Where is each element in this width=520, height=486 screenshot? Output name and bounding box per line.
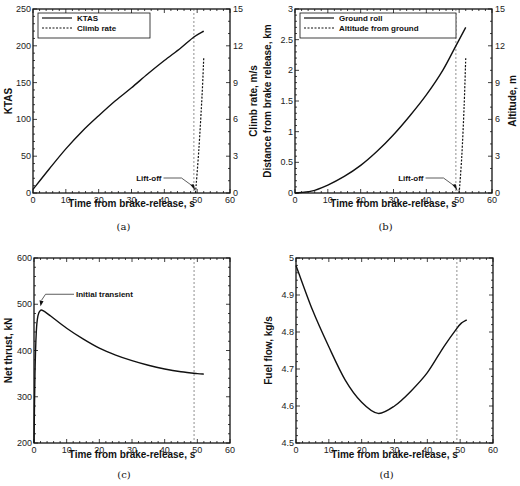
series-fuel-flow — [296, 265, 467, 413]
y2-tick-label: 9 — [495, 78, 500, 88]
x-tick-label: 0 — [293, 445, 298, 455]
y-tick-label: 5 — [289, 253, 294, 263]
y2-tick-label: 15 — [495, 4, 505, 14]
y-axis-label: Net thrust, kN — [3, 318, 14, 384]
y2-tick-label: 15 — [233, 4, 243, 14]
y2-axis: 03691215Climb rate, m/s — [226, 4, 259, 198]
y-axis-label: KTAS — [3, 87, 14, 114]
legend: KTASClimb rate — [38, 13, 150, 38]
y-tick-label: 4.6 — [281, 401, 294, 411]
x-tick-label: 60 — [225, 445, 235, 455]
annotation-text: Lift-off — [136, 174, 162, 183]
series-altitude-from-ground — [459, 58, 466, 193]
subfigure-caption: (c) — [117, 469, 131, 480]
y2-tick-label: 12 — [495, 41, 505, 51]
x-axis-label: Time from brake-release, s — [68, 198, 195, 209]
annotation: Lift-off — [136, 174, 195, 191]
subfigure-caption: (a) — [117, 221, 131, 232]
chart-b: 0102030405060Time from brake-release, s0… — [262, 4, 518, 232]
plot-frame — [296, 258, 493, 443]
x-axis-label: Time from brake-release, s — [330, 198, 457, 209]
y-tick-label: 4.8 — [281, 327, 294, 337]
x-tick-label: 0 — [31, 445, 36, 455]
y-axis: 050100150200250KTAS — [3, 4, 37, 198]
series-ground-roll — [295, 27, 466, 193]
x-tick-label: 60 — [488, 445, 498, 455]
y-tick-label: 600 — [17, 253, 32, 263]
annotation-text: Lift-off — [398, 174, 424, 183]
series-ktas — [33, 31, 204, 189]
y-axis: 4.54.64.74.84.95Fuel flow, kg/s — [263, 253, 493, 448]
legend-label: Climb rate — [77, 24, 117, 33]
y-tick-label: 500 — [17, 299, 32, 309]
y-tick-label: 0 — [26, 188, 31, 198]
x-axis-label: Time from brake-release, s — [331, 449, 458, 460]
y2-axis-label: Altitude, m — [507, 75, 518, 127]
y-tick-label: 150 — [16, 78, 31, 88]
x-axis: 0102030405060Time from brake-release, s — [292, 9, 497, 209]
y-tick-label: 4.5 — [281, 438, 294, 448]
annotation: Initial transient — [40, 290, 134, 306]
legend-label: KTAS — [77, 14, 99, 23]
chart-a: 0102030405060Time from brake-release, s0… — [3, 4, 259, 232]
y2-tick-label: 0 — [233, 188, 238, 198]
y-tick-label: 4.9 — [281, 290, 294, 300]
y2-tick-label: 12 — [233, 41, 243, 51]
x-tick-label: 0 — [292, 195, 297, 205]
y-tick-label: 0 — [288, 188, 293, 198]
y-tick-label: 2 — [288, 65, 293, 75]
x-axis: 0102030405060Time from brake-release, s — [293, 258, 498, 460]
y2-tick-label: 6 — [233, 114, 238, 124]
y-axis: 00.511.522.53Distance from brake release… — [262, 4, 299, 198]
y-tick-label: 1.5 — [280, 96, 293, 106]
y2-tick-label: 9 — [233, 78, 238, 88]
subfigure-caption: (d) — [379, 469, 393, 480]
legend-label: Ground roll — [339, 14, 383, 23]
y-tick-label: 300 — [17, 392, 32, 402]
y-tick-label: 4.7 — [281, 364, 294, 374]
y-axis: 200300400500600Net thrust, kN — [3, 253, 230, 448]
annotation: Lift-off — [398, 174, 457, 191]
y-tick-label: 400 — [17, 346, 32, 356]
y-tick-label: 250 — [16, 4, 31, 14]
x-axis: 0102030405060Time from brake-release, s — [31, 258, 235, 460]
y-axis-label: Fuel flow, kg/s — [263, 316, 274, 385]
figure-canvas: 0102030405060Time from brake-release, s0… — [0, 0, 520, 486]
y2-axis-label: Climb rate, m/s — [248, 65, 259, 137]
y-tick-label: 50 — [21, 151, 31, 161]
series-climb-rate — [196, 58, 204, 193]
x-tick-label: 0 — [30, 195, 35, 205]
y-tick-label: 2.5 — [280, 35, 293, 45]
chart-d: 0102030405060Time from brake-release, s4… — [263, 253, 498, 480]
y-tick-label: 1 — [288, 127, 293, 137]
series-net-thrust — [34, 310, 204, 443]
chart-c: 0102030405060Time from brake-release, s2… — [3, 253, 235, 480]
y2-tick-label: 3 — [495, 151, 500, 161]
y-tick-label: 200 — [17, 438, 32, 448]
y-tick-label: 200 — [16, 41, 31, 51]
x-axis: 0102030405060Time from brake-release, s — [30, 9, 235, 209]
x-axis-label: Time from brake-release, s — [69, 449, 196, 460]
legend-label: Altitude from ground — [339, 24, 419, 33]
subfigure-caption: (b) — [378, 221, 392, 232]
y-tick-label: 3 — [288, 4, 293, 14]
legend: Ground rollAltitude from ground — [300, 13, 456, 38]
y2-tick-label: 6 — [495, 114, 500, 124]
y2-tick-label: 0 — [495, 188, 500, 198]
plot-frame — [34, 258, 230, 443]
annotation-text: Initial transient — [76, 290, 133, 299]
y-axis-label: Distance from brake release, km — [262, 24, 273, 178]
y-tick-label: 0.5 — [280, 157, 293, 167]
y-tick-label: 100 — [16, 114, 31, 124]
y2-tick-label: 3 — [233, 151, 238, 161]
